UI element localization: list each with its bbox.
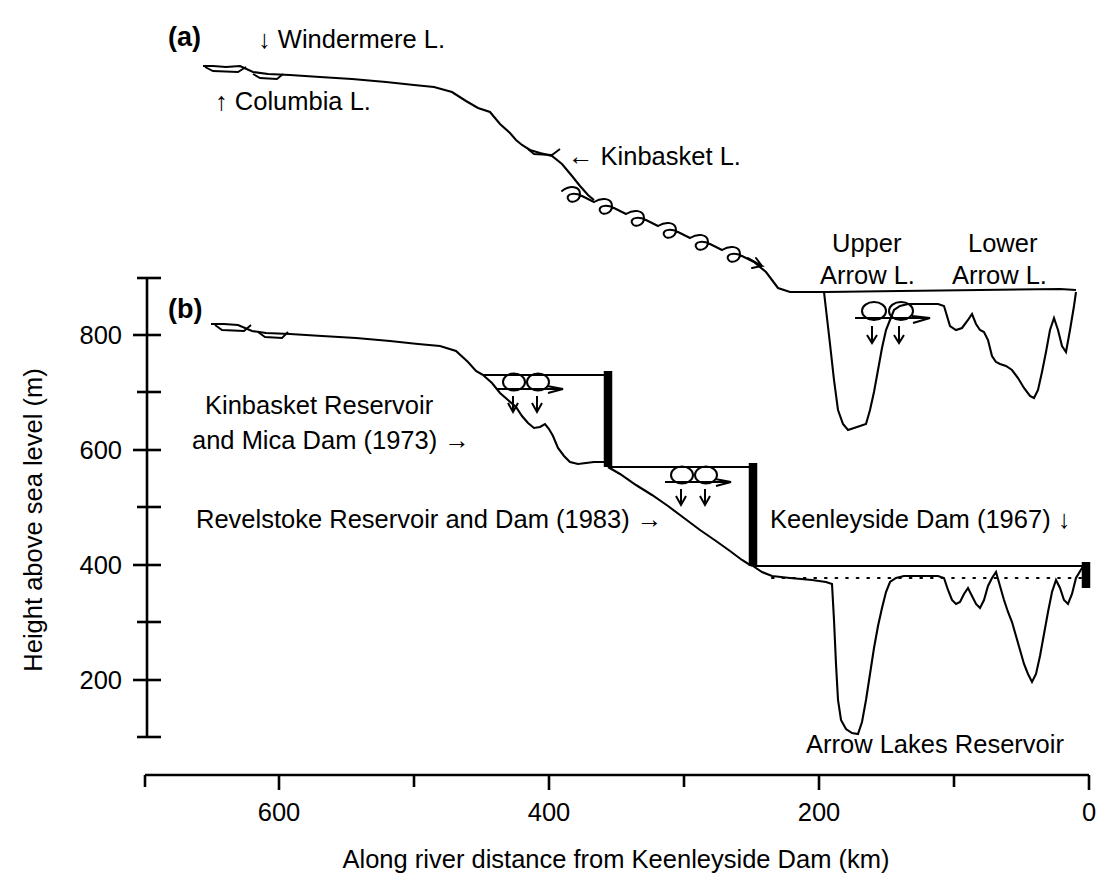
lower-arrow-lake-label-line2: Arrow L.: [952, 261, 1047, 289]
x-tick-label-200: 200: [798, 798, 841, 826]
y-tick-label-400: 400: [79, 551, 122, 579]
y-tick-label-200: 200: [79, 666, 122, 694]
kinbasket-mica-dam-label-line1: Kinbasket Reservoir: [205, 391, 434, 419]
narrows-rv-down-arrow-right: [700, 489, 710, 505]
narrows-symbol-revelstoke: [665, 467, 731, 506]
x-axis-title: Along river distance from Keenleyside Da…: [342, 845, 889, 873]
upper-arrow-lake-label-line2: Arrow L.: [820, 261, 915, 289]
revelstoke-dam-label: Revelstoke Reservoir and Dam (1983) →: [196, 505, 662, 533]
arrow-lakes-reservoir-bathymetry: [753, 566, 1087, 734]
narrows-kb-down-arrow-right: [532, 396, 542, 412]
x-tick-label-600: 600: [258, 798, 301, 826]
narrows-rv-circle-left: [671, 467, 693, 484]
narrows-kb-circle-right: [527, 374, 549, 391]
upper-arrow-lake-label-line1: Upper: [832, 229, 902, 257]
y-tick-label-800: 800: [79, 321, 122, 349]
windermere-lake-label: ↓ Windermere L.: [258, 25, 445, 53]
narrows-symbol-a: [855, 302, 930, 343]
narrows-rv-down-arrow-left: [676, 489, 686, 505]
x-tick-label-0: 0: [1082, 798, 1096, 826]
narrows-kb-circle-left: [503, 374, 525, 391]
panel-a-tag: (a): [168, 22, 201, 52]
kinbasket-mica-dam-label-line2: and Mica Dam (1973) →: [192, 426, 470, 454]
narrows-symbol-kinbasket: [497, 374, 563, 413]
arrow-lakes-reservoir-label: Arrow Lakes Reservoir: [806, 730, 1064, 758]
panel-b-upper-profile: [211, 324, 483, 375]
keenleyside-dam-label: Keenleyside Dam (1967) ↓: [770, 505, 1070, 533]
narrows-a-arrowhead: [912, 316, 930, 323]
narrows-rv-circle-right: [695, 467, 717, 484]
y-axis-title: Height above sea level (m): [19, 368, 47, 671]
narrows-a-down-arrow-left: [867, 326, 877, 343]
lower-arrow-lake-label-line1: Lower: [968, 229, 1038, 257]
y-tick-label-600: 600: [79, 436, 122, 464]
panel-a-group: (a) ↓ Windermere L. ↑: [168, 22, 1076, 430]
x-tick-label-400: 400: [528, 798, 571, 826]
figure-container: (a) ↓ Windermere L. ↑: [0, 0, 1112, 893]
long-profile-figure: (a) ↓ Windermere L. ↑: [0, 0, 1112, 893]
panel-b-tag: (b): [168, 294, 202, 324]
kinbasket-lake-label: ← Kinbasket L.: [568, 142, 741, 170]
panel-b-group: (b): [168, 294, 1089, 758]
columbia-lake-label: ↑ Columbia L.: [215, 87, 371, 115]
narrows-a-down-arrow-right: [894, 326, 904, 343]
